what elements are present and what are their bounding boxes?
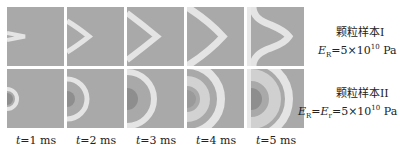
time-label-2: t=2 ms xyxy=(66,134,126,147)
panel-sample2-t2 xyxy=(67,69,124,128)
sample2-param: ER=Er=5×1010 Pa xyxy=(298,101,397,124)
time-label-4: t=4 ms xyxy=(186,134,246,147)
sample1-param: ER=5×1010 Pa xyxy=(318,40,397,63)
time-label-5: t=5 ms xyxy=(246,134,306,147)
panel-sample1-t4 xyxy=(187,7,244,66)
sample2-annotation: 颗粒样本II ER=Er=5×1010 Pa xyxy=(298,86,397,124)
sample1-label: 颗粒样本I xyxy=(318,25,397,40)
panel-sample2-t5 xyxy=(247,69,304,128)
sample2-label: 颗粒样本II xyxy=(298,86,397,101)
panel-sample1-t1 xyxy=(7,7,64,66)
panel-sample2-t1 xyxy=(7,69,64,128)
panel-sample2-t4 xyxy=(187,69,244,128)
time-label-3: t=3 ms xyxy=(126,134,186,147)
panel-sample2-t3 xyxy=(127,69,184,128)
panel-sample1-t3 xyxy=(127,7,184,66)
panel-sample1-t2 xyxy=(67,7,124,66)
sample1-annotation: 颗粒样本I ER=5×1010 Pa xyxy=(318,25,397,63)
panel-sample1-t5 xyxy=(247,7,304,66)
time-label-1: t=1 ms xyxy=(6,134,66,147)
